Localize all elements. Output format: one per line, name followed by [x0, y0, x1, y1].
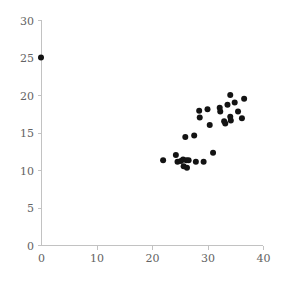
y-tick-label: 0 [27, 240, 34, 253]
data-points [38, 55, 247, 171]
x-tick-label: 10 [90, 252, 104, 265]
x-axis-tick-labels: 010203040 [38, 252, 271, 265]
data-point [196, 108, 202, 114]
data-point [227, 92, 233, 98]
scatter-plot-canvas: 051015202530 010203040 [0, 0, 282, 284]
data-point [193, 159, 199, 165]
data-point [160, 157, 166, 163]
data-point [227, 114, 233, 120]
y-tick-label: 20 [20, 90, 34, 103]
data-point [217, 105, 223, 111]
data-point [184, 165, 190, 171]
y-axis-tick-labels: 051015202530 [20, 15, 34, 253]
data-point [224, 102, 230, 108]
data-point [207, 122, 213, 128]
y-tick-label: 15 [20, 127, 34, 140]
data-point [201, 159, 207, 165]
data-point [182, 134, 188, 140]
data-point [205, 106, 211, 112]
data-point [239, 115, 245, 121]
y-tick-label: 10 [20, 165, 34, 178]
data-point [173, 152, 179, 158]
data-point [197, 115, 203, 121]
data-point [186, 157, 192, 163]
x-tick-label: 0 [38, 252, 45, 265]
y-tick-label: 25 [20, 52, 34, 65]
x-tick-label: 20 [146, 252, 160, 265]
data-point [232, 100, 238, 106]
data-point [241, 96, 247, 102]
data-point [38, 55, 44, 61]
tick-marks [38, 21, 264, 250]
data-point [235, 109, 241, 115]
data-point [222, 121, 228, 127]
axes [42, 20, 264, 246]
scatter-plot-figure: 051015202530 010203040 [0, 0, 282, 284]
y-tick-label: 30 [20, 15, 34, 28]
data-point [210, 150, 216, 156]
x-tick-label: 40 [257, 252, 271, 265]
data-point [191, 133, 197, 139]
y-tick-label: 5 [27, 202, 34, 215]
x-tick-label: 30 [201, 252, 215, 265]
